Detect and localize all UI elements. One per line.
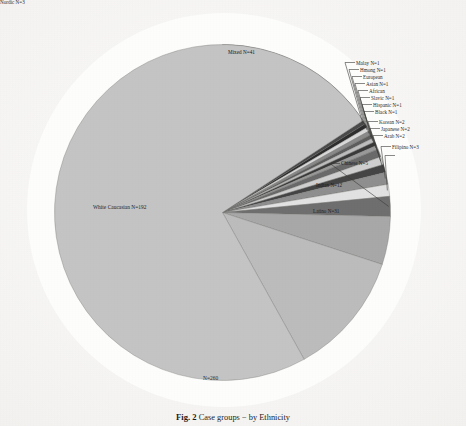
slice-label-hispanic: Hispanic N=1	[373, 103, 402, 108]
slice-label-hmong: Hmong N=1	[360, 68, 386, 73]
figure-page: Mixed N=41 Malay N=1 Hmong N=1 European …	[0, 0, 466, 426]
slice-label-nordic: Nordic N=3	[0, 0, 25, 5]
slice-label-black: Black N=1	[375, 110, 397, 115]
slice-label-slavic: Slavic N=1	[371, 96, 394, 101]
slice-label-filipino: Filipino N=3	[392, 145, 419, 150]
figure-number: Fig. 2	[176, 412, 197, 422]
pie-svg	[0, 0, 466, 426]
slice-label-white-caucasian: White Caucasian N=192	[93, 205, 146, 211]
slice-label-chinese: Chinese N=5	[341, 161, 368, 166]
slice-label-japanese: Japanese N=2	[381, 127, 410, 132]
slice-label-latino: Latino N=31	[313, 209, 339, 214]
figure-caption-text: Case groups − by Ethnicity	[199, 413, 290, 422]
total-label: N=260	[203, 376, 218, 382]
pie-slices	[55, 45, 391, 381]
slice-label-asian: Asian N=1	[366, 82, 388, 87]
slice-label-african: African	[369, 89, 385, 94]
figure-caption: Fig. 2 Case groups − by Ethnicity	[0, 412, 466, 426]
slice-label-arab: Arab N=2	[384, 134, 405, 139]
slice-label-european: European	[363, 75, 383, 80]
pie-chart: Mixed N=41 Malay N=1 Hmong N=1 European …	[0, 0, 466, 426]
slice-label-korean: Korean N=2	[379, 120, 405, 125]
slice-label-indian: Indian N=12	[316, 183, 342, 188]
slice-label-malay: Malay N=1	[356, 61, 380, 66]
slice-label-mixed: Mixed N=41	[228, 50, 255, 55]
